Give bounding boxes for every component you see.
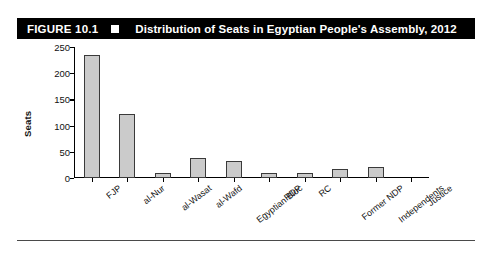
footer-divider: [17, 240, 475, 241]
x-tick-mark: [376, 178, 377, 182]
square-bullet-icon: [111, 25, 119, 33]
bar-rdp: [261, 173, 277, 178]
chart-plot-area: Seats 050100150200250 FJPal-Nural-Wasata…: [0, 39, 492, 224]
bar-fjp: [84, 55, 100, 178]
y-axis-tick-labels: 050100150200250: [40, 39, 70, 178]
figure-number-label: FIGURE 10.1: [27, 23, 98, 35]
bar-former-ndp: [332, 169, 348, 178]
x-tick-mark: [198, 178, 199, 182]
x-tick-mark: [127, 178, 128, 182]
y-tick-label: 200: [54, 68, 70, 79]
x-tick-mark: [305, 178, 306, 182]
x-tick-label: RC: [317, 183, 333, 199]
bar-al-wasat: [155, 173, 171, 178]
y-tick-label: 150: [54, 94, 70, 105]
x-tick-mark: [411, 178, 412, 182]
y-tick-label: 250: [54, 42, 70, 53]
y-axis-title: Seats: [22, 111, 33, 137]
figure-title-text: Distribution of Seats in Egyptian People…: [135, 23, 457, 35]
x-tick-label: FJP: [104, 183, 123, 201]
x-tick-mark: [234, 178, 235, 182]
x-axis-category-labels: FJPal-Nural-Wasatal-WafdEgyptian BlocRDP…: [74, 183, 429, 243]
x-tick-mark: [163, 178, 164, 182]
x-tick-mark: [340, 178, 341, 182]
x-tick-mark: [269, 178, 270, 182]
bar-series: [74, 47, 429, 178]
bar-rc: [297, 173, 313, 178]
x-tick-label: al-Wasat: [179, 183, 213, 213]
y-tick-label: 100: [54, 120, 70, 131]
x-tick-label: al-Nur: [141, 183, 166, 206]
bar-al-nur: [119, 114, 135, 178]
y-tick-label: 50: [59, 146, 70, 157]
bar-egyptian-bloc: [226, 161, 242, 178]
x-tick-mark: [92, 178, 93, 182]
bar-independents: [368, 167, 384, 178]
figure-container: FIGURE 10.1 Distribution of Seats in Egy…: [0, 0, 492, 258]
bar-al-wafd: [190, 158, 206, 178]
x-tick-label: al-Wafd: [214, 183, 244, 210]
figure-title-bar: FIGURE 10.1 Distribution of Seats in Egy…: [17, 18, 475, 39]
